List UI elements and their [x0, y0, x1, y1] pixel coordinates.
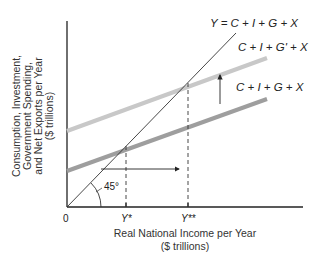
x-axis-title-line1: Real National Income per Year — [114, 227, 257, 239]
line-lower-g — [67, 99, 267, 171]
tick-label-y-star2: Y** — [181, 213, 197, 224]
angle-arc — [91, 183, 101, 207]
y-axis-title-line4: ($ trillions) — [43, 92, 55, 140]
chart: 45° Y = C + I + G + X C + I + G' + X C +… — [0, 0, 316, 255]
label-lower-line: C + I + G + X — [236, 81, 305, 93]
line-upper-g-prime — [67, 58, 267, 131]
origin-label: 0 — [63, 213, 69, 224]
label-45-line: Y = C + I + G + X — [210, 17, 299, 29]
label-upper-line: C + I + G' + X — [238, 41, 309, 53]
y-axis-title: Consumption, Investment, Government Spen… — [10, 55, 55, 177]
x-axis-title-line2: ($ trillions) — [161, 240, 209, 252]
tick-label-y-star: Y* — [121, 213, 133, 224]
angle-label: 45° — [104, 181, 119, 192]
